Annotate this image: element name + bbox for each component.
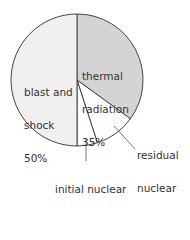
label-blast-line2: shock [24, 120, 73, 131]
label-blast: blast and shock 50% [24, 65, 73, 175]
label-residual: residual nuclear radiation 10% [137, 128, 184, 193]
label-thermal: thermal radiation 35% [82, 49, 129, 159]
label-residual-line2: nuclear [137, 183, 184, 193]
label-initial: initial nuclear radiation 5% [55, 162, 126, 193]
label-thermal-line3: 35% [82, 137, 129, 148]
label-blast-line1: blast and [24, 87, 73, 98]
label-initial-line1: initial nuclear [55, 184, 126, 193]
label-thermal-line1: thermal [82, 71, 129, 82]
label-residual-line1: residual [137, 150, 184, 161]
label-thermal-line2: radiation [82, 104, 129, 115]
